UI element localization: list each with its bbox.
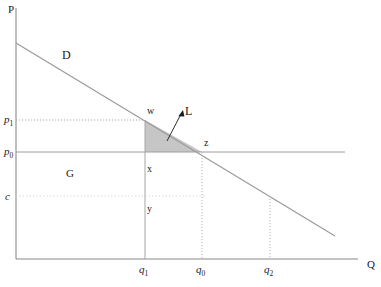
price-p1-label: p1 (4, 114, 13, 128)
quantity-q1-sub: 1 (145, 269, 149, 278)
diagram-canvas (0, 0, 381, 287)
economics-welfare-diagram: P Q D p1 p0 c q1 q0 q2 w z x y G L (0, 0, 381, 287)
loss-triangle-label: L (185, 105, 192, 117)
price-p1-sub: 1 (10, 119, 14, 128)
region-g-label: G (66, 168, 74, 179)
point-y-label: y (147, 204, 152, 214)
cost-c-label: c (5, 191, 10, 202)
demand-curve-line (16, 43, 335, 236)
quantity-q1-label: q1 (139, 264, 148, 278)
point-z-label: z (204, 138, 208, 148)
x-axis-title: Q (367, 259, 375, 270)
demand-curve-label: D (62, 49, 71, 61)
point-w-label: w (147, 106, 154, 116)
y-axis-title: P (8, 4, 14, 15)
deadweight-loss-triangle (145, 120, 202, 152)
quantity-q2-sub: 2 (270, 269, 274, 278)
quantity-q0-label: q0 (196, 264, 205, 278)
quantity-q0-sub: 0 (202, 269, 206, 278)
price-p0-label: p0 (4, 146, 13, 160)
quantity-q2-label: q2 (264, 264, 273, 278)
point-x-label: x (147, 164, 152, 174)
price-p0-sub: 0 (10, 151, 14, 160)
loss-label-arrow-head (178, 110, 184, 116)
